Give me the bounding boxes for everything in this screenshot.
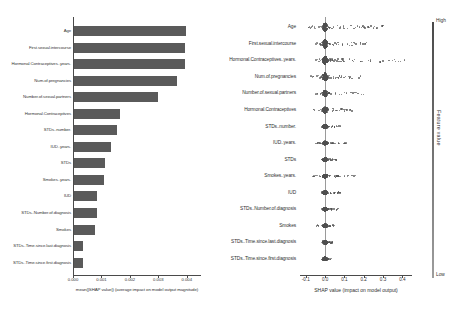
beeswarm-row: Age xyxy=(300,20,412,34)
beeswarm-feature-label: Smokes..years. xyxy=(264,169,296,183)
bar-value-rect xyxy=(74,59,185,69)
beeswarm-dot xyxy=(322,94,324,96)
bar-row: IUD xyxy=(74,191,97,201)
bar-value-rect xyxy=(74,241,83,251)
beeswarm-dot xyxy=(400,61,401,62)
beeswarm-dot xyxy=(338,125,339,126)
feature-value-colorbar: High Low Feature value xyxy=(422,0,469,314)
beeswarm-dot xyxy=(351,45,352,46)
beeswarm-dot xyxy=(350,25,351,26)
colorbar-high-label: High xyxy=(436,18,446,23)
beeswarm-dot xyxy=(382,60,383,61)
beeswarm-dot xyxy=(321,42,322,43)
bar-category-label: Hormonal.Contraceptives xyxy=(25,109,71,119)
beeswarm-dot xyxy=(328,61,329,62)
beeswarm-dot xyxy=(346,142,347,143)
beeswarm-dot xyxy=(367,26,368,27)
beeswarm-dot xyxy=(318,61,319,62)
bar-value-rect xyxy=(74,109,120,119)
beeswarm-dot xyxy=(360,75,361,76)
bar-value-rect xyxy=(74,175,104,185)
beeswarm-dot xyxy=(328,77,329,78)
bar-category-label: Smokes xyxy=(56,225,71,235)
bar-row: STDs..number. xyxy=(74,125,117,135)
beeswarm-dot xyxy=(332,59,333,60)
beeswarm-dot xyxy=(341,94,342,95)
bar-category-label: Number.of.sexual.partners xyxy=(23,92,71,102)
shap-summary-figure: AgeFirst.sexual.intercourseHormonal.Cont… xyxy=(0,0,469,314)
beeswarm-dot xyxy=(342,43,343,44)
beeswarm-dot xyxy=(339,143,340,144)
beeswarm-dot xyxy=(316,93,317,94)
beeswarm-dot xyxy=(324,95,326,97)
bar-value-rect xyxy=(74,76,177,86)
beeswarm-feature-label: Number.of.sexual.partners xyxy=(242,86,296,100)
beeswarm-dot xyxy=(340,125,341,126)
beeswarm-x-tick-label: -0.1 xyxy=(302,277,310,282)
mean-abs-shap-bar-panel: AgeFirst.sexual.intercourseHormonal.Cont… xyxy=(0,0,222,314)
beeswarm-dot xyxy=(347,43,348,44)
bar-x-tick-label: 0.002 xyxy=(125,277,135,282)
beeswarm-dot xyxy=(339,192,340,193)
beeswarm-feature-label: Hormonal.Contraceptives..years. xyxy=(229,53,296,67)
beeswarm-dot xyxy=(335,93,336,94)
beeswarm-dot xyxy=(335,159,336,160)
bar-row: Age xyxy=(74,26,186,36)
bar-row: Hormonal.Contraceptives xyxy=(74,109,120,119)
beeswarm-dot xyxy=(319,77,320,78)
beeswarm-dot xyxy=(336,175,337,176)
beeswarm-dot xyxy=(330,93,331,94)
beeswarm-dot xyxy=(351,78,352,79)
beeswarm-dot xyxy=(349,109,350,110)
beeswarm-dot xyxy=(318,75,319,76)
beeswarm-dot xyxy=(317,175,318,176)
beeswarm-x-axis-label: SHAP value (impact on model output) xyxy=(300,287,412,293)
beeswarm-dot xyxy=(338,44,339,45)
beeswarm-dot xyxy=(322,59,323,60)
beeswarm-feature-label: STDs..Time.since.last.diagnosis xyxy=(231,235,296,249)
bar-value-rect xyxy=(74,225,95,235)
bar-value-rect xyxy=(74,142,111,152)
bar-row: STDs..Time.since.first.diagnosis xyxy=(74,258,83,268)
beeswarm-dot xyxy=(344,175,345,176)
beeswarm-dot xyxy=(335,143,336,144)
bar-category-label: Num.of.pregnancies xyxy=(34,76,71,86)
beeswarm-dot xyxy=(395,61,396,62)
beeswarm-dot xyxy=(323,209,324,210)
beeswarm-dot xyxy=(369,27,370,28)
beeswarm-dot xyxy=(339,94,340,95)
bar-value-rect xyxy=(74,43,185,53)
beeswarm-dot xyxy=(323,60,324,61)
beeswarm-dot xyxy=(324,227,326,229)
beeswarm-dot xyxy=(321,225,322,226)
beeswarm-dot xyxy=(318,110,319,111)
bar-row: First.sexual.intercourse xyxy=(74,43,185,53)
beeswarm-dot xyxy=(325,90,327,92)
beeswarm-dot xyxy=(321,259,322,260)
beeswarm-feature-label: IUD xyxy=(288,186,296,200)
beeswarm-x-tick-label: 0.2 xyxy=(361,277,367,282)
beeswarm-row: STDs..Time.since.first.diagnosis xyxy=(300,252,412,266)
beeswarm-dot xyxy=(322,92,323,93)
beeswarm-dot xyxy=(333,26,334,27)
bar-category-label: STDs xyxy=(61,158,71,168)
beeswarm-dot xyxy=(323,109,324,110)
beeswarm-dot xyxy=(321,191,322,192)
beeswarm-dot xyxy=(340,108,341,109)
beeswarm-dot xyxy=(340,77,341,78)
bar-x-tick-label: 0.001 xyxy=(96,277,106,282)
bar-plot-area: AgeFirst.sexual.intercourseHormonal.Cont… xyxy=(73,17,202,275)
beeswarm-dot xyxy=(322,77,324,79)
beeswarm-dot xyxy=(331,258,332,259)
beeswarm-dot xyxy=(328,208,329,209)
beeswarm-feature-label: IUD..years. xyxy=(273,136,296,150)
beeswarm-dot xyxy=(368,60,369,61)
colorbar-low-label: Low xyxy=(436,272,445,277)
beeswarm-dot xyxy=(351,110,352,111)
beeswarm-dot xyxy=(362,61,363,62)
bar-row: STDs..Time.since.last.diagnosis xyxy=(74,241,83,251)
beeswarm-dot xyxy=(338,61,339,62)
beeswarm-row: Hormonal.Contraceptives..years. xyxy=(300,53,412,67)
beeswarm-dot xyxy=(340,28,341,29)
beeswarm-feature-label: Smokes xyxy=(279,219,296,233)
